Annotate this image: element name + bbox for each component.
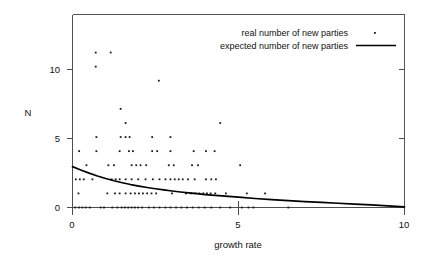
data-point [132, 150, 134, 152]
data-point [173, 164, 175, 166]
data-point [168, 164, 170, 166]
data-point [165, 178, 167, 180]
data-point [127, 207, 129, 209]
data-point [120, 108, 122, 110]
legend-label-expected: expected number of new parties [220, 41, 349, 51]
data-point [142, 193, 144, 195]
data-point [193, 150, 195, 152]
legend-label-real: real number of new parties [241, 28, 348, 38]
data-point [131, 164, 133, 166]
data-point [153, 207, 155, 209]
data-point [86, 164, 88, 166]
data-point [113, 164, 115, 166]
data-point [79, 178, 81, 180]
data-point [197, 164, 199, 166]
data-point [85, 207, 87, 209]
data-point [175, 207, 177, 209]
data-point [219, 207, 221, 209]
data-point [131, 207, 133, 209]
data-point [119, 150, 121, 152]
data-point [204, 207, 206, 209]
data-point [130, 193, 132, 195]
data-point [159, 178, 161, 180]
data-point [186, 207, 188, 209]
data-point [198, 207, 200, 209]
data-point [106, 193, 108, 195]
data-point [82, 207, 84, 209]
data-point [156, 150, 158, 152]
y-tick-label-5: 5 [55, 133, 60, 144]
data-point [248, 207, 250, 209]
data-point [194, 178, 196, 180]
data-point [137, 178, 139, 180]
data-point [100, 207, 102, 209]
data-point [134, 207, 136, 209]
data-point [114, 193, 116, 195]
data-point [145, 164, 147, 166]
data-point [155, 193, 157, 195]
data-point [158, 80, 160, 82]
data-point [214, 150, 216, 152]
data-point [253, 207, 255, 209]
data-point [171, 193, 173, 195]
data-point [141, 207, 143, 209]
data-point [116, 207, 118, 209]
data-point [239, 164, 241, 166]
data-point [95, 52, 97, 54]
data-point [246, 193, 248, 195]
data-point [119, 193, 121, 195]
data-point [264, 193, 266, 195]
data-point [174, 178, 176, 180]
data-point [187, 178, 189, 180]
data-point [152, 178, 154, 180]
data-point [241, 207, 243, 209]
data-point [131, 178, 133, 180]
data-point [125, 193, 127, 195]
data-point [146, 193, 148, 195]
x-tick-label-5: 5 [235, 219, 240, 230]
data-point [214, 193, 216, 195]
data-point [287, 207, 289, 209]
data-point [151, 136, 153, 138]
data-point [78, 207, 80, 209]
data-point [215, 178, 217, 180]
data-point [125, 136, 127, 138]
data-point [182, 178, 184, 180]
data-point [95, 66, 97, 68]
data-point [119, 178, 121, 180]
data-point [210, 193, 212, 195]
data-point [111, 207, 113, 209]
data-point [170, 150, 172, 152]
data-point [110, 52, 112, 54]
data-point [192, 207, 194, 209]
data-point [165, 207, 167, 209]
data-point [151, 193, 153, 195]
legend-point-marker-icon [374, 32, 376, 34]
data-point [78, 150, 80, 152]
data-point [205, 178, 207, 180]
data-point [170, 136, 172, 138]
data-point [120, 136, 122, 138]
data-point [170, 207, 172, 209]
data-point [125, 122, 127, 124]
scatter-chart-figure: 0 5 10 N 0 5 10 growth rate real number … [0, 0, 434, 263]
data-point [181, 207, 183, 209]
y-tick-label-0: 0 [55, 202, 60, 213]
x-tick-label-10: 10 [399, 219, 410, 230]
chart-canvas: 0 5 10 N 0 5 10 growth rate real number … [0, 0, 434, 263]
data-point [107, 164, 109, 166]
data-point [135, 164, 137, 166]
data-point [210, 178, 212, 180]
data-point [191, 164, 193, 166]
data-point [115, 178, 117, 180]
data-point [96, 136, 98, 138]
data-point [145, 178, 147, 180]
data-point [75, 178, 77, 180]
data-point [83, 178, 85, 180]
data-point [205, 150, 207, 152]
data-point [134, 193, 136, 195]
x-tick-label-0: 0 [69, 219, 74, 230]
x-axis-title: growth rate [214, 239, 262, 250]
data-point [170, 178, 172, 180]
data-point [229, 207, 231, 209]
